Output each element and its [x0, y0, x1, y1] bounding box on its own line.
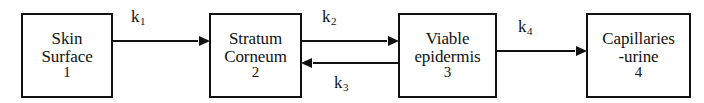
compartment-label-line-1: Viable [426, 30, 470, 47]
rate-constant-label-k3: k3 [334, 74, 348, 91]
compartment-viable-epidermis: Viable epidermis 3 [398, 13, 497, 98]
rate-constant-subscript: 2 [331, 15, 337, 27]
compartment-label-line-1: Skin [52, 30, 83, 47]
rate-constant-symbol: k [518, 17, 527, 36]
compartment-skin-surface: Skin Surface 1 [21, 13, 113, 98]
compartment-label-line-2: -urine [619, 48, 659, 65]
arrow-k4-viable-epidermis-to-capillaries-urine [497, 50, 575, 52]
arrow-k3-viable-epidermis-to-stratum-corneum [313, 62, 398, 64]
rate-constant-symbol: k [334, 73, 343, 92]
compartment-index: 3 [444, 65, 452, 81]
rate-constant-subscript: 1 [140, 15, 146, 27]
rate-constant-label-k2: k2 [322, 8, 336, 25]
rate-constant-subscript: 3 [343, 81, 349, 93]
compartment-label-line-2: epidermis [414, 48, 480, 65]
compartment-label-line-1: Stratum [229, 30, 282, 47]
compartment-index: 4 [635, 65, 643, 81]
rate-constant-symbol: k [131, 7, 140, 26]
rate-constant-symbol: k [322, 7, 331, 26]
arrow-k1-skin-surface-to-stratum-corneum [113, 40, 198, 42]
compartment-capillaries-urine: Capillaries -urine 4 [586, 13, 691, 98]
rate-constant-subscript: 4 [527, 25, 533, 37]
compartment-label-line-2: Corneum [224, 48, 287, 65]
compartment-label-line-1: Capillaries [602, 30, 675, 47]
compartment-stratum-corneum: Stratum Corneum 2 [209, 13, 302, 98]
rate-constant-label-k1: k1 [131, 8, 145, 25]
compartment-index: 2 [252, 65, 260, 81]
compartment-index: 1 [63, 65, 71, 81]
compartment-label-line-2: Surface [41, 48, 92, 65]
diagram-canvas: Skin Surface 1 Stratum Corneum 2 Viable … [0, 0, 704, 103]
arrow-k2-stratum-corneum-to-viable-epidermis [302, 40, 387, 42]
rate-constant-label-k4: k4 [518, 18, 532, 35]
